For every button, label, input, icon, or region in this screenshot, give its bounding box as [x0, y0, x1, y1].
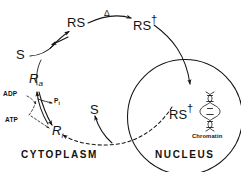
label-r-active: Ra: [29, 72, 43, 85]
label-atp: ATP: [5, 117, 18, 124]
label-chromatin: Chromatin: [192, 134, 222, 140]
label-r-inactive: Ri: [52, 124, 63, 137]
label-adp: ADP: [3, 91, 17, 98]
edge-adp-in: [27, 96, 36, 104]
label-rs-prime-cytoplasm-base: RS: [133, 18, 151, 33]
edge-s-release: [95, 116, 112, 143]
label-rs-prime-nucleus: RS†: [169, 105, 193, 121]
label-rs-prime-cytoplasm-mark: †: [151, 13, 157, 25]
label-pi-subscript: i: [59, 100, 61, 106]
label-delta: Δ: [104, 9, 110, 18]
edge-nucleus-to-ri-dashed: [63, 107, 172, 145]
label-nucleus: NUCLEUS: [155, 150, 215, 160]
label-rs-prime-nucleus-mark: †: [187, 102, 193, 114]
label-r-active-subscript: a: [38, 79, 42, 88]
edge-s-to-rs-curve: [30, 45, 54, 56]
label-r-active-base: R: [29, 71, 38, 86]
edge-s-to-rs-forward: [50, 32, 69, 49]
label-s-released: S: [90, 103, 99, 116]
pathway-diagram: S RS Δ RS† RS† Ra Ri S ADP ATP Pi Chroma…: [0, 0, 241, 172]
label-s-cytoplasm: S: [16, 48, 25, 61]
label-rs: RS: [67, 16, 85, 29]
label-cytoplasm: CYTOPLASM: [21, 150, 98, 160]
edge-rsprime-into-nucleus: [154, 25, 190, 84]
edge-ri-to-ra: [37, 92, 48, 124]
diagram-canvas: [0, 0, 241, 172]
chromatin-helix: [200, 92, 220, 131]
label-pi: Pi: [54, 98, 60, 105]
label-r-inactive-base: R: [52, 123, 61, 138]
label-rs-prime-cytoplasm: RS†: [133, 16, 157, 32]
label-r-inactive-subscript: i: [61, 131, 63, 140]
label-pi-base: P: [54, 97, 59, 104]
label-rs-prime-nucleus-base: RS: [169, 107, 187, 122]
edge-pi-out: [38, 99, 52, 103]
